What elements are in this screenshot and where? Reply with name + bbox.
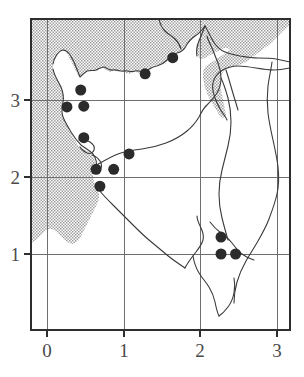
- data-point: [167, 52, 178, 63]
- data-point: [230, 249, 241, 260]
- x-tick-label-3: 3: [272, 341, 282, 360]
- distribution-map-figure: [0, 0, 304, 377]
- y-tick-label-3: 3: [11, 91, 21, 110]
- data-point: [78, 101, 89, 112]
- data-point: [216, 232, 227, 243]
- data-point: [216, 249, 227, 260]
- data-point: [61, 101, 72, 112]
- y-tick-label-2: 2: [11, 168, 21, 187]
- x-tick-label-0: 0: [42, 341, 52, 360]
- data-point: [91, 164, 102, 175]
- map-svg: [0, 0, 304, 377]
- data-point: [108, 164, 119, 175]
- x-tick-label-2: 2: [195, 341, 205, 360]
- x-tick-label-1: 1: [119, 341, 129, 360]
- data-point: [75, 84, 86, 95]
- data-point: [78, 132, 89, 143]
- y-tick-label-1: 1: [11, 245, 21, 264]
- data-point: [140, 68, 151, 79]
- data-point: [94, 181, 105, 192]
- data-point: [124, 148, 135, 159]
